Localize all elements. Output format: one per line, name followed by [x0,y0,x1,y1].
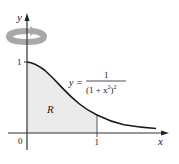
origin-label: 0 [18,136,23,146]
equation-lhs: y = [68,77,83,88]
x-axis-label: x [157,135,163,147]
solid-of-revolution-figure: y x 0 1 1 R y = 1 (1 + x2)2 [0,0,179,164]
plot-canvas: y x 0 1 1 R y = 1 (1 + x2)2 [0,0,179,164]
region-label: R [46,103,54,115]
region-r-fill [27,62,97,133]
y-tick-label: 1 [17,57,22,67]
y-axis-arrow-icon [25,13,30,21]
x-tick-label: 1 [95,137,100,147]
equation-numerator: 1 [104,70,109,80]
equation-denominator: (1 + x2)2 [86,84,117,95]
function-equation: y = 1 (1 + x2)2 [68,70,126,95]
y-axis-label: y [16,11,22,23]
